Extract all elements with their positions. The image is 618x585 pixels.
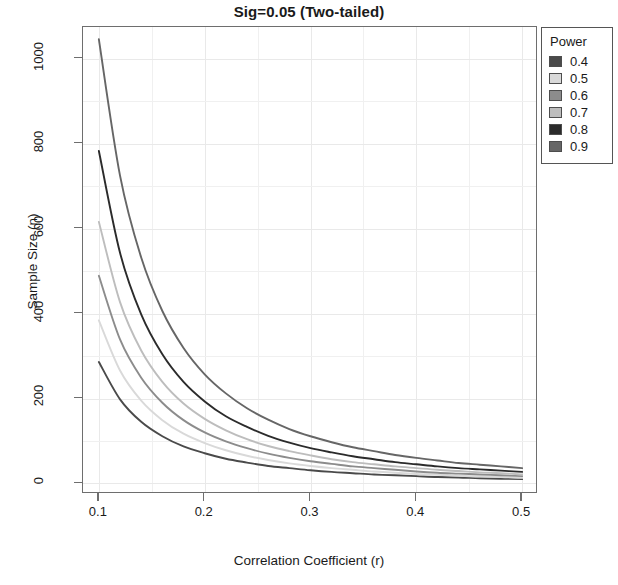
series-lines bbox=[83, 27, 537, 493]
plot-area bbox=[82, 26, 537, 493]
series-line-0.6 bbox=[99, 276, 522, 476]
y-tick-mark bbox=[74, 57, 82, 58]
x-tick-label: 0.2 bbox=[179, 504, 229, 519]
x-tick-mark bbox=[415, 493, 416, 501]
x-axis-title: Correlation Coefficient (r) bbox=[0, 553, 618, 568]
legend-entries: 0.40.50.60.70.80.9 bbox=[549, 54, 606, 153]
legend-swatch-icon bbox=[549, 124, 562, 135]
y-tick-mark bbox=[74, 312, 82, 313]
y-tick-label: 0 bbox=[31, 453, 46, 509]
y-tick-label: 800 bbox=[31, 113, 46, 169]
y-tick-label: 200 bbox=[31, 368, 46, 424]
x-tick-mark bbox=[97, 493, 98, 501]
chart-root: Sig=0.05 (Two-tailed) 02004006008001000 … bbox=[0, 0, 618, 585]
x-tick-mark bbox=[309, 493, 310, 501]
legend-item-0.5[interactable]: 0.5 bbox=[549, 71, 606, 85]
legend-title: Power bbox=[550, 34, 606, 49]
series-line-0.5 bbox=[99, 320, 522, 478]
legend-item-label: 0.6 bbox=[570, 88, 588, 103]
legend-swatch-icon bbox=[549, 141, 562, 152]
x-tick-label: 0.4 bbox=[390, 504, 440, 519]
legend-item-label: 0.5 bbox=[570, 71, 588, 86]
legend-item-0.7[interactable]: 0.7 bbox=[549, 105, 606, 119]
legend-item-0.8[interactable]: 0.8 bbox=[549, 122, 606, 136]
y-tick-mark bbox=[74, 397, 82, 398]
y-axis-title: Sample Size (n) bbox=[25, 172, 40, 352]
legend-item-label: 0.4 bbox=[570, 54, 588, 69]
y-tick-label: 1000 bbox=[31, 28, 46, 84]
y-tick-mark bbox=[74, 482, 82, 483]
legend-item-0.9[interactable]: 0.9 bbox=[549, 139, 606, 153]
legend-item-label: 0.8 bbox=[570, 122, 588, 137]
legend-item-label: 0.9 bbox=[570, 139, 588, 154]
legend-swatch-icon bbox=[549, 107, 562, 118]
legend-swatch-icon bbox=[549, 73, 562, 84]
legend-swatch-icon bbox=[549, 90, 562, 101]
legend-swatch-icon bbox=[549, 56, 562, 67]
legend-item-0.4[interactable]: 0.4 bbox=[549, 54, 606, 68]
chart-title: Sig=0.05 (Two-tailed) bbox=[0, 3, 618, 20]
y-tick-mark bbox=[74, 227, 82, 228]
x-tick-mark bbox=[520, 493, 521, 501]
legend-item-0.6[interactable]: 0.6 bbox=[549, 88, 606, 102]
x-tick-label: 0.3 bbox=[285, 504, 335, 519]
legend-box: Power 0.40.50.60.70.80.9 bbox=[541, 27, 613, 164]
x-tick-label: 0.5 bbox=[496, 504, 546, 519]
x-tick-mark bbox=[203, 493, 204, 501]
y-tick-mark bbox=[74, 142, 82, 143]
x-tick-label: 0.1 bbox=[73, 504, 123, 519]
legend-item-label: 0.7 bbox=[570, 105, 588, 120]
